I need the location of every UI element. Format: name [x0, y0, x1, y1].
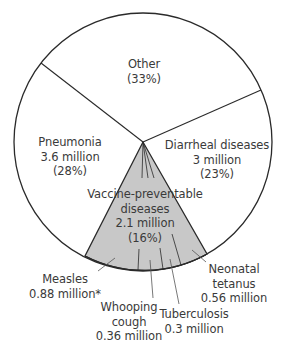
label-vaccine-preventable: Vaccine-preventable diseases 2.1 million… — [87, 187, 203, 245]
label-other-name: Other — [127, 57, 161, 72]
label-diarrheal-value: 3 million — [165, 153, 269, 168]
label-measles-value: 0.88 million* — [29, 287, 101, 302]
label-tuberculosis: Tuberculosis 0.3 million — [159, 307, 228, 336]
label-measles-name: Measles — [29, 272, 101, 287]
label-pneumonia: Pneumonia 3.6 million (28%) — [38, 135, 101, 179]
label-whooping-value: 0.36 million — [96, 329, 162, 344]
label-measles: Measles 0.88 million* — [29, 272, 101, 301]
label-vaccine-line2: diseases — [87, 202, 203, 217]
label-diarrheal-pct: (23%) — [165, 167, 269, 182]
label-pneumonia-name: Pneumonia — [38, 135, 101, 150]
label-whooping-cough: Whooping cough 0.36 million — [96, 300, 162, 344]
label-diarrheal-name: Diarrheal diseases — [165, 138, 269, 153]
label-whooping-line1: Whooping — [96, 300, 162, 315]
label-whooping-line2: cough — [96, 315, 162, 330]
label-pneumonia-value: 3.6 million — [38, 150, 101, 165]
label-vaccine-pct: (16%) — [87, 231, 203, 246]
label-tetanus-value: 0.56 million — [201, 291, 267, 306]
label-vaccine-line1: Vaccine-preventable — [87, 187, 203, 202]
label-tuberculosis-value: 0.3 million — [159, 322, 228, 337]
label-diarrheal: Diarrheal diseases 3 million (23%) — [165, 138, 269, 182]
label-neonatal-tetanus: Neonatal tetanus 0.56 million — [201, 262, 267, 306]
label-other-pct: (33%) — [127, 72, 161, 87]
label-pneumonia-pct: (28%) — [38, 164, 101, 179]
label-tetanus-line2: tetanus — [201, 277, 267, 292]
label-other: Other (33%) — [127, 57, 161, 86]
label-tetanus-line1: Neonatal — [201, 262, 267, 277]
label-vaccine-value: 2.1 million — [87, 216, 203, 231]
label-tuberculosis-name: Tuberculosis — [159, 307, 228, 322]
